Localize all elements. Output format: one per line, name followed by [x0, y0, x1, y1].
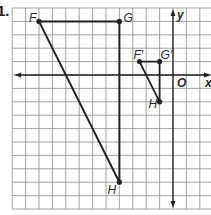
triangle-outline — [140, 62, 160, 102]
y-axis-label: y — [176, 8, 185, 22]
vertex-point — [117, 180, 122, 185]
label-f-prime: F' — [134, 48, 144, 62]
label-g-prime: G' — [161, 48, 173, 62]
label-h-prime: H' — [149, 97, 161, 111]
vertex-point — [36, 19, 41, 24]
label-h: H — [107, 183, 116, 197]
axes — [14, 9, 211, 208]
y-axis-arrow-up-icon — [171, 9, 176, 16]
x-axis-label: x — [204, 76, 211, 90]
x-axis-arrow-left-icon — [14, 73, 21, 78]
label-g: G — [123, 11, 132, 25]
y-axis-arrow-down-icon — [171, 201, 176, 208]
vertex-point — [117, 19, 122, 24]
coordinate-grid: FGHF'G'H'yxO — [0, 0, 211, 215]
origin-label: O — [177, 76, 187, 90]
label-f: F — [29, 11, 37, 25]
grid-lines — [12, 8, 211, 209]
